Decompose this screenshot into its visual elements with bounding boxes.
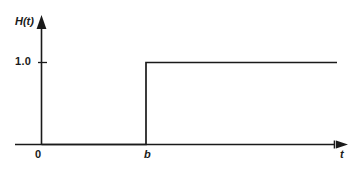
x-axis-label: t [340,149,344,160]
plot-canvas [0,0,357,169]
y-axis-label: H(t) [15,16,34,27]
step-function-figure: H(t) 1.0 0 b t [0,0,357,169]
step-function-curve [42,63,338,145]
origin-label: 0 [35,149,41,160]
y-tick-label-1.0: 1.0 [15,56,31,67]
x-tick-label-b: b [144,149,151,160]
y-axis-arrowhead-icon [37,15,47,29]
